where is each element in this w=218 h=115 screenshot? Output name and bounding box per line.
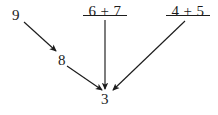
node-label-eight: 8: [58, 53, 66, 68]
expression-text-four-plus-five: 4 + 5: [166, 4, 210, 19]
arrow-diagram-figure: 9 8 3 6 + 7 4 + 5: [0, 0, 218, 115]
node-label-three: 3: [101, 92, 109, 107]
expression-text-six-plus-seven: 6 + 7: [83, 4, 127, 19]
arrow-nine-to-eight: [24, 22, 56, 51]
expression-underline-bar-four-plus-five: [166, 15, 210, 16]
arrow-sum45-to-three: [113, 21, 185, 90]
node-label-nine: 9: [12, 8, 20, 23]
arrow-eight-to-three: [67, 66, 102, 90]
expression-underline-bar-six-plus-seven: [83, 15, 127, 16]
